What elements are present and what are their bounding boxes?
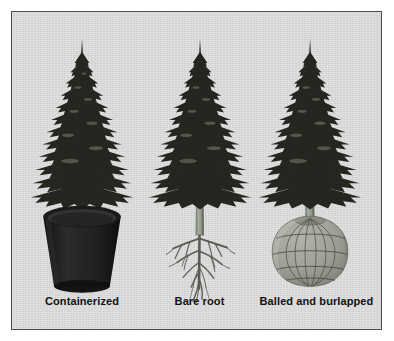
label-containerized: Containerized bbox=[12, 295, 152, 307]
nursery-container bbox=[43, 206, 121, 293]
panel-balled-burlapped: Balled and burlapped bbox=[250, 12, 382, 329]
panel-bare-root: Bare root bbox=[142, 12, 257, 329]
bare-root-scene bbox=[142, 12, 257, 329]
tree-foliage bbox=[149, 39, 252, 210]
containerized-scene bbox=[12, 12, 152, 329]
tree-foliage bbox=[259, 39, 362, 210]
burlap-root-ball bbox=[272, 216, 348, 286]
label-bare-root: Bare root bbox=[142, 295, 257, 307]
balled-burlapped-scene bbox=[250, 12, 382, 329]
panel-containerized: Containerized bbox=[12, 12, 152, 329]
tree-foliage bbox=[31, 39, 134, 210]
label-balled-burlapped: Balled and burlapped bbox=[250, 295, 382, 307]
illustration-frame: Containerized bbox=[11, 11, 382, 330]
bare-root-system bbox=[166, 236, 235, 304]
